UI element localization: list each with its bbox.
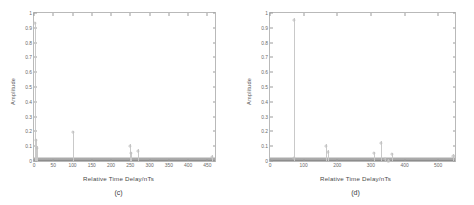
x-axis-label-c: Relative Time Delay/nTs [0, 175, 237, 182]
x-tick-mark [303, 159, 304, 162]
y-tick-mark [453, 57, 456, 58]
y-tick-label: 0.7 [25, 55, 32, 60]
y-tick-label: 0.1 [261, 144, 268, 149]
x-tick-mark [207, 13, 208, 16]
y-tick-mark [213, 131, 216, 132]
y-tick-mark [213, 42, 216, 43]
subplot-caption-d: (d) [237, 189, 474, 196]
x-tick-label: 300 [367, 163, 375, 168]
y-tick-label: 0 [29, 159, 32, 164]
x-tick-mark [337, 13, 338, 16]
stem-line [73, 131, 74, 161]
x-tick-mark [337, 159, 338, 162]
x-tick-label: 400 [184, 163, 192, 168]
x-tick-mark [438, 13, 439, 16]
y-tick-mark [453, 146, 456, 147]
x-tick-mark [111, 159, 112, 162]
y-tick-label: 0.4 [25, 99, 32, 104]
x-tick-mark [149, 13, 150, 16]
y-tick-mark [213, 87, 216, 88]
y-tick-mark [213, 27, 216, 28]
y-tick-mark [270, 116, 273, 117]
x-tick-mark [53, 159, 54, 162]
y-tick-mark [270, 42, 273, 43]
y-tick-mark [270, 57, 273, 58]
y-tick-mark [453, 27, 456, 28]
data-point-marker [129, 152, 132, 155]
x-tick-label: 200 [333, 163, 341, 168]
y-tick-mark [453, 87, 456, 88]
x-tick-mark [72, 13, 73, 16]
y-tick-mark [270, 131, 273, 132]
data-point-marker [390, 153, 393, 156]
y-tick-label: 0.8 [25, 40, 32, 45]
y-tick-label: 0.7 [261, 55, 268, 60]
subplot-caption-c: (c) [0, 189, 237, 196]
y-tick-mark [270, 27, 273, 28]
y-tick-mark [453, 131, 456, 132]
y-tick-label: 0.4 [261, 99, 268, 104]
x-tick-label: 350 [165, 163, 173, 168]
y-tick-label: 1 [265, 11, 268, 16]
x-tick-mark [438, 159, 439, 162]
y-axis-label-c: Amplitude [10, 78, 16, 105]
y-tick-mark [213, 116, 216, 117]
subplot-c: Amplitude 00.10.20.30.40.50.60.70.80.910… [0, 0, 237, 205]
data-point-marker [136, 149, 139, 152]
x-tick-mark [91, 13, 92, 16]
stem-line [294, 18, 295, 161]
y-tick-mark [270, 146, 273, 147]
x-tick-label: 0 [269, 163, 272, 168]
x-tick-mark [168, 159, 169, 162]
x-tick-label: 100 [300, 163, 308, 168]
y-tick-label: 0 [265, 159, 268, 164]
y-tick-mark [213, 57, 216, 58]
data-point-marker [34, 139, 37, 142]
x-tick-label: 150 [88, 163, 96, 168]
x-tick-mark [404, 13, 405, 16]
plot-area-d: 00.10.20.30.40.50.60.70.80.9101002003004… [269, 12, 456, 162]
y-tick-mark [213, 13, 216, 14]
data-point-marker [379, 141, 382, 144]
y-tick-label: 0.6 [25, 70, 32, 75]
x-tick-mark [404, 159, 405, 162]
x-tick-label: 50 [51, 163, 56, 168]
x-tick-mark [270, 159, 271, 162]
data-point-marker [34, 22, 37, 25]
y-tick-mark [270, 101, 273, 102]
zero-baseline [270, 160, 455, 161]
x-tick-mark [303, 13, 304, 16]
data-point-marker [387, 159, 390, 162]
y-tick-label: 0.3 [25, 114, 32, 119]
y-axis-label-d: Amplitude [246, 78, 252, 105]
x-tick-mark [111, 13, 112, 16]
y-tick-mark [213, 101, 216, 102]
x-tick-mark [130, 13, 131, 16]
y-tick-mark [453, 116, 456, 117]
y-tick-label: 0.3 [261, 114, 268, 119]
figure-two-stem-plots: Amplitude 00.10.20.30.40.50.60.70.80.910… [0, 0, 474, 205]
y-tick-mark [270, 72, 273, 73]
y-tick-label: 0.8 [261, 40, 268, 45]
y-tick-label: 0.5 [261, 85, 268, 90]
x-tick-label: 0 [33, 163, 36, 168]
x-tick-label: 450 [203, 163, 211, 168]
x-tick-mark [149, 159, 150, 162]
y-tick-label: 0.1 [25, 144, 32, 149]
data-point-marker [71, 131, 74, 134]
data-point-marker [324, 144, 327, 147]
x-tick-label: 500 [434, 163, 442, 168]
data-point-marker [326, 150, 329, 153]
y-tick-mark [453, 72, 456, 73]
x-tick-label: 250 [126, 163, 134, 168]
y-tick-mark [453, 13, 456, 14]
data-point-marker [129, 144, 132, 147]
y-tick-label: 0.6 [261, 70, 268, 75]
x-tick-label: 200 [107, 163, 115, 168]
x-tick-mark [370, 159, 371, 162]
y-tick-label: 0.2 [261, 129, 268, 134]
y-tick-label: 1 [29, 11, 32, 16]
y-tick-mark [453, 101, 456, 102]
x-tick-mark [188, 159, 189, 162]
x-tick-label: 300 [145, 163, 153, 168]
